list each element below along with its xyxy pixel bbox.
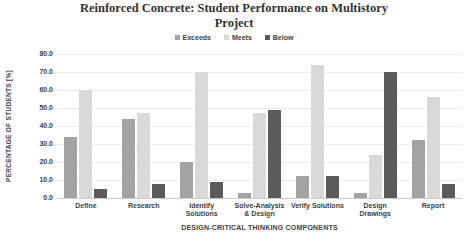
bar-exceeds [180, 162, 193, 198]
y-tick-label: 60.0 [20, 86, 53, 94]
legend-swatch-icon [265, 35, 270, 40]
bar-meets [253, 113, 266, 198]
y-tick-label: 50.0 [20, 104, 53, 112]
bar-group [57, 54, 115, 198]
x-axis-category-label: Design Drawings [346, 202, 404, 219]
bar-exceeds [238, 193, 251, 198]
bar-below [442, 184, 455, 198]
bar-meets [195, 72, 208, 198]
y-tick-label: 20.0 [20, 158, 53, 166]
x-axis-title: DESIGN-CRITICAL THINKING COMPONENTS [57, 224, 462, 231]
bar-group [346, 54, 404, 198]
legend-item-below: Below [265, 34, 294, 41]
y-tick-label: 70.0 [20, 68, 53, 76]
x-axis-labels: DefineResearchIdentify SolutionsSolve-An… [57, 202, 462, 219]
legend-label: Exceeds [183, 34, 211, 41]
x-axis-category-label: Define [57, 202, 115, 219]
bar-meets [137, 113, 150, 198]
legend-swatch-icon [175, 35, 180, 40]
y-axis-ticks: 0.010.020.030.040.050.060.070.080.0 [20, 54, 53, 198]
legend-label: Below [273, 34, 294, 41]
bar-group [173, 54, 231, 198]
bar-below [268, 110, 281, 198]
bar-group [231, 54, 289, 198]
legend: ExceedsMeetsBelow [0, 34, 468, 41]
bar-group [115, 54, 173, 198]
bar-exceeds [354, 193, 367, 198]
bar-below [384, 72, 397, 198]
x-axis-category-label: Verify Solutions [288, 202, 346, 219]
plot-area [57, 54, 462, 199]
chart-title: Reinforced Concrete: Student Performance… [66, 1, 402, 32]
y-tick-label: 80.0 [20, 50, 53, 58]
y-tick-label: 0.0 [20, 194, 53, 202]
legend-item-exceeds: Exceeds [175, 34, 211, 41]
bar-below [152, 184, 165, 198]
bar-below [210, 182, 223, 198]
bar-group [288, 54, 346, 198]
bar-meets [79, 90, 92, 198]
legend-item-meets: Meets [224, 34, 252, 41]
bar-below [94, 189, 107, 198]
legend-label: Meets [232, 34, 252, 41]
bar-exceeds [296, 176, 309, 198]
x-axis-category-label: Solve-Analysis & Design [231, 202, 289, 219]
legend-swatch-icon [224, 35, 229, 40]
bar-group [404, 54, 462, 198]
bar-meets [369, 155, 382, 198]
bar-meets [427, 97, 440, 198]
bar-exceeds [64, 137, 77, 198]
chart-page: Reinforced Concrete: Student Performance… [0, 0, 468, 244]
bar-exceeds [412, 140, 425, 198]
y-tick-label: 40.0 [20, 122, 53, 130]
x-axis-category-label: Research [115, 202, 173, 219]
bar-meets [311, 65, 324, 198]
x-axis-category-label: Report [404, 202, 462, 219]
x-axis-category-label: Identify Solutions [173, 202, 231, 219]
y-tick-label: 30.0 [20, 140, 53, 148]
bar-below [326, 176, 339, 198]
y-tick-label: 10.0 [20, 176, 53, 184]
bar-exceeds [122, 119, 135, 198]
y-axis-title: PERCENTAGE OF STUDENTS [%] [5, 54, 12, 198]
